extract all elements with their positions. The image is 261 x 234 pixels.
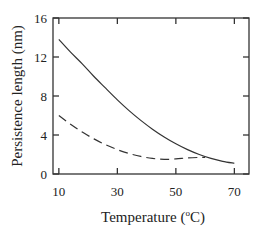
x-tick-label: 50 — [169, 184, 182, 199]
x-tick-label: 70 — [228, 184, 241, 199]
y-axis-label: Persistence length (nm) — [9, 25, 26, 167]
x-ticks: 10305070 — [52, 18, 241, 199]
plot-area: 10305070 0481216 — [34, 11, 249, 199]
x-axis-label-main: Temperature ( — [101, 209, 185, 226]
persistence-length-chart: 10305070 0481216 Temperature (oC) Persis… — [0, 0, 261, 234]
x-axis-label: Temperature (oC) — [101, 208, 205, 226]
series-group — [59, 39, 235, 163]
y-tick-label: 12 — [34, 50, 47, 65]
y-tick-label: 16 — [34, 11, 48, 26]
plot-frame — [53, 18, 249, 174]
y-tick-label: 8 — [41, 89, 48, 104]
y-ticks: 0481216 — [34, 11, 249, 182]
x-tick-label: 10 — [52, 184, 65, 199]
series-line-dashed — [59, 116, 205, 160]
x-tick-label: 30 — [111, 184, 124, 199]
x-axis-label-unit: C) — [190, 209, 205, 226]
series-line-solid — [59, 39, 235, 163]
y-tick-label: 4 — [41, 128, 48, 143]
y-tick-label: 0 — [41, 167, 48, 182]
